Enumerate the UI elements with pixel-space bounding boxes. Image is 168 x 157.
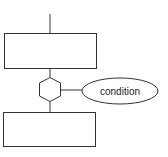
top-process-box[interactable] [5, 34, 97, 69]
decision-hexagon[interactable] [40, 78, 61, 102]
condition-label: condition [100, 86, 140, 97]
bottom-process-box[interactable] [4, 113, 96, 147]
flowchart-canvas: condition [0, 0, 168, 157]
